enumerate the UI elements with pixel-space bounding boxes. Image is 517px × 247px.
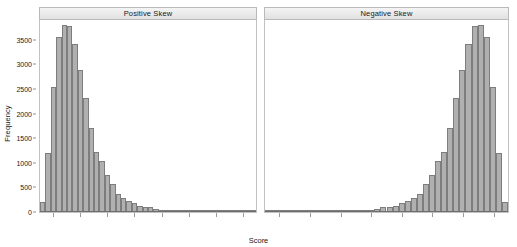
y-tick-label: 3000 [16, 61, 32, 68]
baseline-axis [265, 211, 508, 212]
y-tick-label: 500 [20, 184, 32, 191]
x-tick-mark [134, 213, 135, 217]
panel-positive-skew: Positive Skew [39, 7, 257, 213]
y-tick-label: 2000 [16, 110, 32, 117]
x-tick-mark [216, 213, 217, 217]
x-axis-title: Score [0, 236, 517, 245]
x-tick-mark [463, 213, 464, 217]
x-axis-ticks-left [39, 213, 257, 223]
strip-label: Negative Skew [361, 10, 413, 18]
y-tick-label: 2500 [16, 85, 32, 92]
x-tick-mark [162, 213, 163, 217]
plot-area-positive-skew [39, 20, 257, 213]
x-tick-mark [494, 213, 495, 217]
bar-series-negative-skew [265, 20, 508, 212]
y-tick-label: 0 [28, 209, 32, 216]
y-tick-label: 1500 [16, 135, 32, 142]
x-tick-mark [189, 213, 190, 217]
x-tick-mark [107, 213, 108, 217]
x-axis-ticks-right [264, 213, 509, 223]
y-tick-mark [33, 162, 36, 163]
y-axis-ticks: 0500100015002000250030003500 [10, 0, 36, 247]
x-tick-mark [310, 213, 311, 217]
histogram-figure: Frequency 0500100015002000250030003500 P… [0, 0, 517, 247]
y-tick-mark [33, 187, 36, 188]
plot-area-negative-skew [264, 20, 509, 213]
y-tick-mark [33, 113, 36, 114]
y-tick-mark [33, 88, 36, 89]
x-tick-mark [279, 213, 280, 217]
y-tick-label: 1000 [16, 159, 32, 166]
y-tick-mark [33, 138, 36, 139]
baseline-axis [40, 211, 256, 212]
x-tick-mark [432, 213, 433, 217]
x-tick-mark [402, 213, 403, 217]
panel-negative-skew: Negative Skew [264, 7, 509, 213]
y-tick-label: 3500 [16, 36, 32, 43]
y-tick-mark [33, 39, 36, 40]
y-tick-mark [33, 212, 36, 213]
x-tick-mark [53, 213, 54, 217]
x-tick-mark [341, 213, 342, 217]
strip-header-positive-skew: Positive Skew [39, 7, 257, 20]
strip-header-negative-skew: Negative Skew [264, 7, 509, 20]
x-tick-mark [243, 213, 244, 217]
y-tick-mark [33, 64, 36, 65]
bar-series-positive-skew [40, 20, 256, 212]
strip-label: Positive Skew [124, 10, 173, 18]
x-tick-mark [371, 213, 372, 217]
x-tick-mark [80, 213, 81, 217]
